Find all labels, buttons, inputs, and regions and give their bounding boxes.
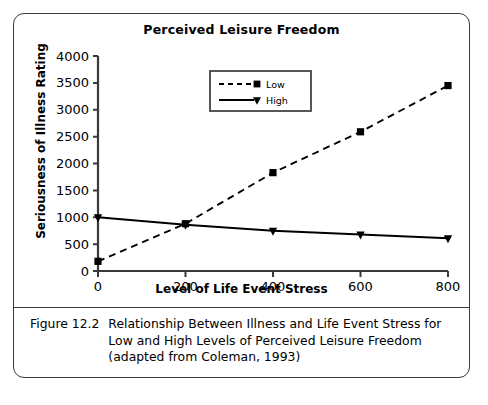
figure-frame: Perceived Leisure Freedom Seriousness of… (13, 13, 470, 378)
x-axis-ticks: 0200400600800 (94, 271, 461, 294)
svg-text:High: High (266, 95, 288, 106)
svg-text:1500: 1500 (56, 183, 89, 198)
svg-text:4000: 4000 (56, 49, 89, 64)
chart-legend: LowHigh (210, 71, 311, 111)
y-axis-ticks: 05001000150020002500300035004000 (56, 49, 98, 279)
plot-area: 05001000150020002500300035004000 0200400… (14, 14, 470, 307)
svg-text:800: 800 (436, 279, 461, 294)
svg-text:200: 200 (173, 279, 198, 294)
svg-text:2500: 2500 (56, 129, 89, 144)
figure-caption: Figure 12.2 Relationship Between Illness… (14, 308, 469, 378)
svg-text:1000: 1000 (56, 210, 89, 225)
svg-text:0: 0 (94, 279, 102, 294)
svg-text:0: 0 (81, 264, 89, 279)
svg-text:400: 400 (261, 279, 286, 294)
svg-text:Low: Low (266, 79, 285, 90)
svg-text:600: 600 (348, 279, 373, 294)
svg-text:2000: 2000 (56, 156, 89, 171)
svg-text:3500: 3500 (56, 75, 89, 90)
caption-text: Relationship Between Illness and Life Ev… (108, 316, 453, 366)
svg-text:500: 500 (64, 237, 89, 252)
svg-text:3000: 3000 (56, 102, 89, 117)
chart-region: Perceived Leisure Freedom Seriousness of… (14, 14, 469, 307)
caption-number: Figure 12.2 (30, 316, 108, 333)
